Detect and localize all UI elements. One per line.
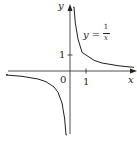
y-axis-arrow-icon [68,4,73,11]
plot-area [0,0,137,141]
fraction-numerator: 1 [102,24,110,31]
x-axis-label: x [128,75,134,85]
x-axis-arrow-icon [130,69,137,74]
fraction-denominator: x [102,35,110,42]
x-tick-label-1: 1 [83,77,89,87]
origin-label: 0 [60,75,66,85]
curve-negative-branch [6,75,67,135]
y-tick-label-1: 1 [59,50,65,60]
function-label-lhs: y = [83,30,100,40]
y-axis-label: y [58,1,64,11]
